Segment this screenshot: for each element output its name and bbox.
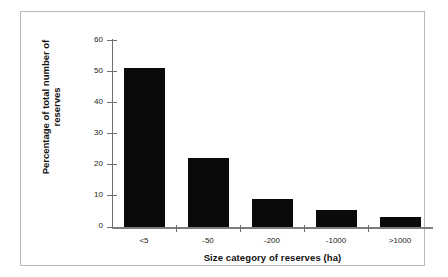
bar-category-5 (380, 217, 421, 227)
y-tick-label-60-wrap: 60 (79, 36, 103, 44)
y-tick-label-50: 50 (81, 67, 103, 75)
plot-area (112, 40, 433, 227)
y-tick-label-60: 60 (81, 36, 103, 44)
bar-category-2 (188, 158, 229, 227)
x-category-label-3: -200 (240, 236, 304, 245)
x-tick-mark-4 (368, 225, 369, 232)
x-axis-title: Size category of reserves (ha) (112, 252, 433, 263)
x-tick-mark-3 (304, 225, 305, 232)
y-tick-label-30-wrap: 30 (79, 129, 103, 137)
x-axis-line (112, 227, 433, 229)
x-category-label-4: -1000 (304, 236, 368, 245)
y-tick-label-20: 20 (81, 160, 103, 168)
y-tick-label-0: 0 (81, 222, 103, 230)
y-tick-label-20-wrap: 20 (79, 160, 103, 168)
y-axis-title-line-1: Percentage of total number of (40, 14, 51, 200)
bar-category-1 (124, 68, 165, 227)
bar-category-4 (316, 210, 357, 227)
x-category-label-5: >1000 (368, 236, 432, 245)
x-category-label-1: <5 (112, 236, 176, 245)
y-axis-title-line-2: reserves (51, 14, 62, 200)
y-tick-label-40-wrap: 40 (79, 98, 103, 106)
y-axis-title: Percentage of total number of reserves (40, 14, 62, 200)
y-tick-label-30: 30 (81, 129, 103, 137)
x-category-label-2: -50 (176, 236, 240, 245)
y-tick-label-10-wrap: 10 (79, 191, 103, 199)
bar-category-3 (252, 199, 293, 227)
y-tick-label-50-wrap: 50 (79, 67, 103, 75)
x-tick-mark-1 (176, 225, 177, 232)
x-tick-mark-2 (240, 225, 241, 232)
figure-frame: Percentage of total number of reserves 6… (20, 11, 425, 266)
y-tick-label-10: 10 (81, 191, 103, 199)
y-tick-label-0-wrap: 0 (79, 222, 103, 230)
y-tick-label-40: 40 (81, 98, 103, 106)
